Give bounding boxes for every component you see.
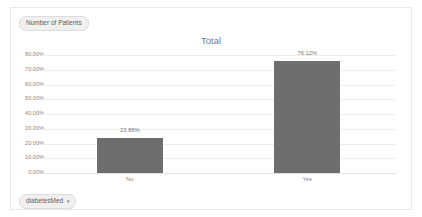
x-axis: No Yes (41, 177, 396, 183)
chart-card: Number of Patients Total 80.00% 70.00% 6… (10, 7, 412, 210)
bar-no[interactable] (97, 138, 163, 173)
axis-baseline (41, 173, 396, 174)
bar-value-label: 76.12% (297, 51, 317, 57)
chart-title: Total (11, 36, 411, 46)
bar-value-label: 23.88% (120, 128, 140, 134)
x-axis-tick-no: No (41, 177, 219, 183)
bar-slot-yes: 76.12% (219, 55, 397, 173)
field-pill-label: diabetesMed (26, 198, 63, 205)
measure-pill-number-of-patients[interactable]: Number of Patients (19, 16, 89, 31)
plot-wrapper: 80.00% 70.00% 60.00% 50.00% 40.00% 30.00… (11, 55, 413, 190)
bar-series: 23.88% 76.12% (41, 55, 396, 173)
bar-slot-no: 23.88% (41, 55, 219, 173)
plot-area: 23.88% 76.12% (41, 55, 396, 173)
field-pill-diabetesmed[interactable]: diabetesMed ▾ (19, 194, 76, 209)
chevron-down-icon: ▾ (67, 199, 70, 204)
bar-yes[interactable] (274, 61, 340, 173)
x-axis-tick-yes: Yes (219, 177, 397, 183)
measure-pill-label: Number of Patients (26, 20, 82, 27)
